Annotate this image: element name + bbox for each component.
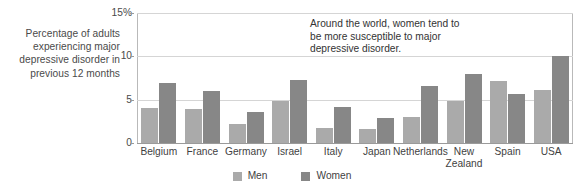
bar-women — [247, 112, 264, 143]
bar-women — [203, 91, 220, 143]
bar-women — [159, 83, 176, 143]
bar-men — [534, 90, 551, 143]
legend-label-men: Men — [248, 171, 268, 181]
bar-men — [403, 117, 420, 143]
legend-item-men: Men — [233, 171, 268, 181]
plot-border-left — [137, 13, 138, 143]
legend-swatch-men — [233, 172, 242, 181]
bar-group — [272, 13, 307, 143]
bar-group — [185, 13, 220, 143]
bar-men — [185, 109, 202, 143]
bar-men — [316, 128, 333, 143]
bar-group — [490, 13, 525, 143]
bar-men — [490, 81, 507, 143]
bar-women — [465, 74, 482, 143]
bar-women — [377, 118, 394, 143]
bar-women — [290, 80, 307, 143]
bar-men — [229, 124, 246, 143]
y-tick-label-15: 15% — [98, 8, 132, 18]
bar-group — [141, 13, 176, 143]
plot-border-right — [572, 13, 573, 143]
axis-baseline — [137, 143, 573, 144]
y-tick-mark-10 — [130, 56, 134, 57]
chart-annotation: Around the world, women tend to be more … — [310, 18, 470, 56]
bar-group — [229, 13, 264, 143]
y-tick-mark-5 — [130, 100, 134, 101]
bar-men — [141, 108, 158, 143]
legend-item-women: Women — [301, 171, 351, 181]
legend-swatch-women — [301, 172, 310, 181]
x-label-usa: USA — [515, 146, 584, 158]
y-tick-label-10: 10 — [98, 51, 132, 61]
legend-label-women: Women — [316, 171, 351, 181]
y-tick-label-5: 5 — [98, 95, 132, 105]
bar-men — [359, 129, 376, 143]
bar-women — [508, 94, 525, 143]
bar-men — [447, 101, 464, 143]
y-tick-mark-0 — [130, 143, 134, 144]
depression-bar-chart: Percentage of adults experiencing major … — [0, 0, 584, 186]
bar-women — [421, 86, 438, 143]
bar-women — [552, 56, 569, 143]
bar-men — [272, 101, 289, 143]
chart-legend: Men Women — [0, 168, 584, 184]
bar-women — [334, 107, 351, 143]
bar-group — [534, 13, 569, 143]
y-tick-mark-15 — [130, 13, 134, 14]
